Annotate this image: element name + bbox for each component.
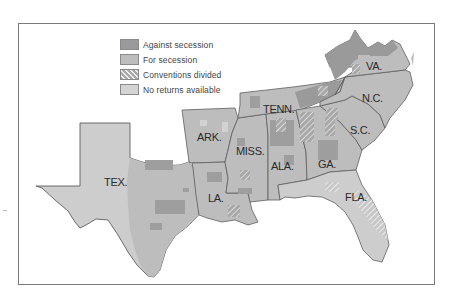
label-alabama: ALA. bbox=[271, 160, 294, 172]
swatch-against-secession bbox=[120, 39, 139, 50]
state-florida bbox=[278, 170, 389, 262]
legend-label: Against secession bbox=[143, 40, 213, 50]
label-virginia: VA. bbox=[366, 60, 382, 72]
label-north-carolina: N.C. bbox=[362, 92, 383, 104]
map-legend: Against secession For secession Conventi… bbox=[120, 37, 221, 97]
label-louisiana: LA. bbox=[208, 192, 224, 204]
legend-item-for: For secession bbox=[120, 52, 221, 67]
swatch-for-secession bbox=[120, 54, 139, 65]
label-south-carolina: S.C. bbox=[350, 124, 370, 136]
legend-label: No returns available bbox=[143, 85, 221, 95]
label-georgia: GA. bbox=[318, 158, 336, 170]
legend-item-against: Against secession bbox=[120, 37, 221, 52]
legend-label: Conventions divided bbox=[143, 70, 221, 80]
legend-label: For secession bbox=[143, 55, 197, 65]
state-texas bbox=[36, 123, 199, 277]
label-florida: FLA. bbox=[345, 191, 367, 203]
swatch-no-returns bbox=[120, 84, 139, 95]
label-texas: TEX. bbox=[104, 176, 127, 188]
southern-states-map bbox=[0, 0, 454, 301]
label-arkansas: ARK. bbox=[197, 131, 221, 143]
label-tennessee: TENN. bbox=[263, 103, 295, 115]
swatch-conventions-divided bbox=[120, 69, 139, 80]
legend-item-divided: Conventions divided bbox=[120, 67, 221, 82]
label-mississippi: MISS. bbox=[236, 145, 264, 157]
legend-item-no-returns: No returns available bbox=[120, 82, 221, 97]
